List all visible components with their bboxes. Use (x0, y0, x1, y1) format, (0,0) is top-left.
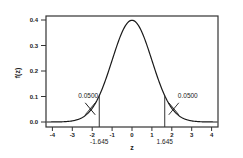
x-axis-label: z (130, 144, 134, 151)
normal-distribution-chart: -1.6451.645 0.00.10.20.30.4 -4-3-2-10123… (0, 0, 243, 158)
x-axis: -4-3-2-101234 (50, 127, 214, 138)
y-tick-label: 0.3 (30, 43, 39, 49)
x-tick-label: 3 (190, 132, 194, 138)
x-tick-label: 1 (150, 132, 154, 138)
y-tick-label: 0.2 (30, 68, 39, 74)
tail-probability-label-right: 0.0500 (178, 92, 198, 99)
density-line (46, 20, 217, 122)
y-tick-label: 0.0 (30, 119, 39, 125)
x-tick-label: 4 (210, 132, 214, 138)
y-tick-label: 0.1 (30, 94, 39, 100)
x-tick-label: -2 (90, 132, 96, 138)
x-tick-label: -3 (70, 132, 76, 138)
x-tick-label: 2 (170, 132, 174, 138)
y-axis: 0.00.10.20.30.4 (30, 17, 46, 125)
x-tick-label: 0 (130, 132, 134, 138)
density-curve (46, 20, 217, 122)
tail-annotations: 0.05000.0500 (78, 92, 198, 115)
critical-value-label: 1.645 (157, 138, 174, 145)
tail-probability-label-left: 0.0500 (78, 92, 98, 99)
x-tick-label: -4 (50, 132, 56, 138)
x-tick-label: -1 (109, 132, 115, 138)
plot-border (46, 16, 218, 127)
critical-value-label: -1.645 (90, 138, 109, 145)
plot-frame (46, 16, 218, 127)
y-axis-label: f(z) (14, 68, 22, 79)
y-tick-label: 0.4 (30, 17, 39, 23)
